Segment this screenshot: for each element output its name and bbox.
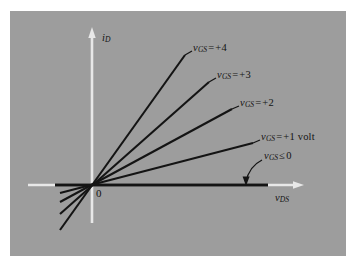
- vgs-subscript: GS: [269, 153, 278, 162]
- figure-root: iD vDS 0 vGS=+4 vGS=+3 vGS=+2 vGS=+1 vol…: [0, 0, 355, 266]
- plot-panel: iD vDS 0 vGS=+4 vGS=+3 vGS=+2 vGS=+1 vol…: [10, 11, 346, 256]
- vgs-subscript: GS: [198, 45, 207, 54]
- label-vgs-plus-2: vGS=+2: [240, 98, 274, 109]
- vgs-value: +2: [262, 97, 274, 108]
- label-vgs-plus-3: vGS=+3: [217, 70, 251, 81]
- curve-vgs-plus-3: [60, 82, 209, 214]
- label-vgs-plus-1: vGS=+1 volt: [261, 132, 315, 143]
- label-vgs-le-0: vGS≤0: [264, 151, 292, 162]
- vgs-value: +4: [215, 42, 227, 53]
- x-axis-subscript: DS: [280, 195, 289, 204]
- vgs-subscript: GS: [266, 134, 275, 143]
- vgs-value: +1 volt: [283, 131, 315, 142]
- y-axis-line: [88, 27, 95, 223]
- leader-tick-vgs-plus-2: [232, 106, 239, 109]
- vgs-subscript: GS: [222, 72, 231, 81]
- vgs-value: +3: [239, 69, 251, 80]
- leader-tick-vgs-plus-3: [209, 78, 216, 82]
- vgs-subscript: GS: [245, 100, 254, 109]
- vgs-equals: ≤: [278, 150, 286, 161]
- leader-tick-vgs-plus-1: [253, 140, 260, 143]
- leader-tick-vgs-plus-4: [185, 51, 192, 55]
- x-axis-label: vDS: [275, 193, 289, 204]
- leader-line-vgs-le-0: [243, 160, 262, 186]
- label-vgs-plus-4: vGS=+4: [193, 43, 227, 54]
- curve-vgs-plus-4: [60, 55, 185, 230]
- origin-label: 0: [96, 188, 102, 199]
- vgs-value: 0: [286, 150, 291, 161]
- y-axis-label: iD: [102, 33, 110, 44]
- y-axis-subscript: D: [105, 35, 110, 44]
